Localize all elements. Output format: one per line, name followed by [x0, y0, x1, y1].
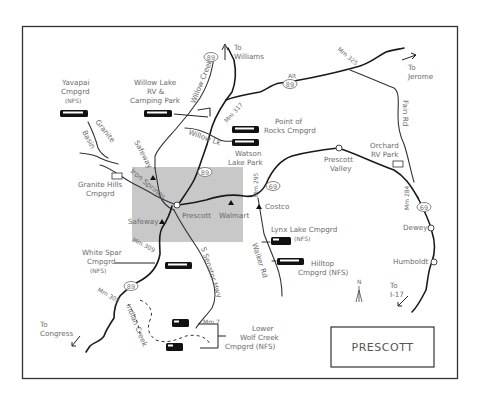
svg-text:Alt: Alt: [288, 72, 297, 79]
svg-text:N: N: [357, 278, 362, 285]
svg-text:Cmpgrd (NFS): Cmpgrd (NFS): [298, 268, 349, 277]
fain-rd-label: Fain Rd: [401, 100, 410, 126]
prescott-label: Prescott: [182, 211, 211, 220]
svg-text:(NFS): (NFS): [294, 235, 310, 242]
svg-text:RV &: RV &: [147, 87, 165, 96]
svg-text:Orchard: Orchard: [370, 141, 399, 150]
prescott-valley-label-2: Valley: [330, 164, 352, 173]
svg-text:To: To: [407, 63, 416, 72]
map-title: PRESCOTT: [352, 341, 414, 354]
svg-text:Granite Hills: Granite Hills: [78, 180, 122, 189]
mm295-label: Mm 295: [252, 172, 259, 197]
svg-text:Point of: Point of: [275, 117, 303, 126]
svg-text:To: To: [389, 281, 398, 290]
svg-text:Cmpgrd (NFS): Cmpgrd (NFS): [225, 342, 276, 351]
orchard-rv-cabin-icon: [393, 161, 403, 167]
watson-lake-rv-icon: [232, 139, 259, 146]
svg-text:Cmpgrd: Cmpgrd: [86, 189, 115, 198]
svg-text:Lynx Lake Cmpgrd: Lynx Lake Cmpgrd: [271, 225, 337, 234]
hwy89-center-shield: 89: [198, 168, 212, 177]
mm284-label: Mm 284: [403, 185, 410, 210]
svg-text:Hilltop: Hilltop: [311, 259, 335, 268]
svg-text:89: 89: [286, 81, 294, 89]
dewey-marker: [428, 225, 434, 231]
svg-text:Wolf Creek: Wolf Creek: [240, 333, 280, 342]
svg-text:Congress: Congress: [40, 329, 73, 338]
dewey-label: Dewey: [403, 223, 428, 232]
prescott-valley-marker: [336, 145, 342, 151]
svg-text:White Spar: White Spar: [82, 248, 122, 257]
svg-text:(NFS): (NFS): [65, 97, 81, 104]
svg-text:69: 69: [269, 183, 277, 191]
svg-text:89: 89: [127, 283, 135, 291]
hwy69-east-shield: 69: [417, 203, 431, 212]
svg-text:Camping Park: Camping Park: [130, 96, 181, 105]
map-title-box: PRESCOTT: [331, 327, 434, 367]
willow-lake-rv-icon: [144, 110, 172, 117]
svg-text:89: 89: [201, 169, 209, 177]
humboldt-marker: [431, 259, 437, 265]
svg-text:Jerome: Jerome: [407, 72, 434, 81]
svg-text:To: To: [39, 320, 48, 329]
granite-hills-cabin-icon: [112, 173, 122, 179]
hwy69-shield: 69: [266, 182, 280, 191]
safeway-south-label: Safeway: [128, 217, 159, 226]
prescott-map: 89 Alt 89 89 69 69 89 Prescott Prescott …: [0, 0, 478, 403]
lynx-lake-rv-icon: [271, 237, 291, 245]
mm7-label: Mm 7: [203, 318, 220, 325]
svg-text:Lake Park: Lake Park: [228, 158, 263, 167]
hwy89-south-shield: 89: [124, 282, 138, 291]
costco-label: Costco: [265, 202, 289, 211]
svg-text:Williams: Williams: [234, 52, 264, 61]
yavapai-rv-icon: [60, 110, 88, 117]
svg-text:I-17: I-17: [390, 290, 404, 299]
svg-text:Rocks Cmpgrd: Rocks Cmpgrd: [264, 126, 316, 135]
svg-text:Willow Lake: Willow Lake: [134, 78, 177, 87]
svg-text:69: 69: [420, 204, 428, 212]
orchard-rv-label: Orchard RV Park: [370, 141, 399, 159]
point-of-rocks-rv-icon: [232, 126, 259, 133]
walmart-label: Walmart: [219, 211, 249, 220]
hilltop-rv-icon: [277, 258, 304, 265]
lower-wolf-creek-rv-icon-2: [166, 343, 183, 351]
lower-wolf-creek-rv-icon-1: [172, 319, 189, 327]
white-spar-rv-icon: [165, 262, 192, 269]
svg-text:Cmpgrd: Cmpgrd: [87, 257, 116, 266]
svg-text:Cmpgrd: Cmpgrd: [61, 87, 90, 96]
svg-text:Lower: Lower: [252, 324, 274, 333]
prescott-town-marker: [174, 202, 180, 208]
svg-text:RV Park: RV Park: [371, 150, 399, 159]
svg-text:Watson: Watson: [235, 149, 262, 158]
humboldt-label: Humboldt: [393, 257, 428, 266]
svg-text:(NFS): (NFS): [90, 267, 106, 274]
svg-text:To: To: [233, 43, 242, 52]
prescott-valley-label: Prescott: [324, 155, 353, 164]
svg-text:Yavapai: Yavapai: [61, 78, 89, 87]
